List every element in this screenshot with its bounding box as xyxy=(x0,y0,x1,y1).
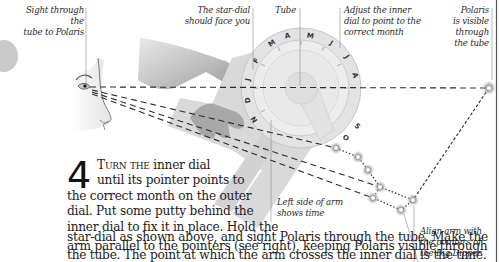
star-icon xyxy=(351,150,365,164)
caption-sight-through-tube: Sight through the tube to Polaris xyxy=(10,5,84,38)
step-line-4: dial. Put some putty behind the xyxy=(67,204,253,220)
step-line-3: the correct month on the outer xyxy=(67,189,251,205)
step-line-1: Turn the inner dial xyxy=(97,158,210,174)
svg-text:M: M xyxy=(306,31,314,40)
caption-left-side-of-arm: Left side of arm shows time xyxy=(277,197,343,219)
caption-tube: Tube xyxy=(275,5,296,16)
caption-polaris-visible: Polaris is visible through the tube xyxy=(440,5,489,49)
star-icon xyxy=(394,203,408,217)
step-lead: Turn the xyxy=(97,158,150,172)
star-icon xyxy=(366,191,380,205)
caption-adjust-inner-dial: Adjust the inner dial to point to the co… xyxy=(344,5,434,38)
upper-hand-icon xyxy=(138,38,235,89)
step-number: 4 xyxy=(67,159,91,191)
step-line-2: until its pointer points to xyxy=(97,173,244,189)
star-icon xyxy=(329,141,343,155)
star-dial-instruction-page: M A M J J A F J D N O S xyxy=(0,0,499,262)
background-blob xyxy=(0,40,18,72)
star-icon xyxy=(361,163,375,177)
step-line-8: the tube. The point at which the arm cro… xyxy=(67,248,486,262)
polaris-star-icon xyxy=(481,80,497,96)
svg-text:S: S xyxy=(353,122,362,131)
face-profile-icon xyxy=(70,58,111,132)
svg-text:O: O xyxy=(342,133,350,143)
caption-star-dial-face: The star-dial should face you xyxy=(170,5,250,27)
star-icon xyxy=(406,193,420,207)
